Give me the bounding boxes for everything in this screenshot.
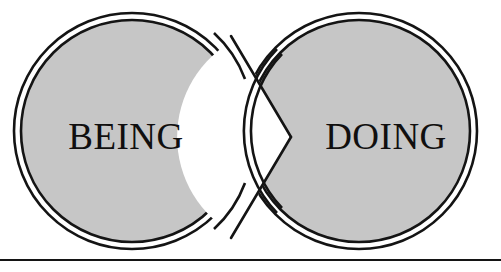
being-label: BEING: [28, 118, 224, 155]
doing-label: DOING: [288, 118, 484, 155]
diagram-canvas: BEING DOING: [0, 0, 501, 272]
